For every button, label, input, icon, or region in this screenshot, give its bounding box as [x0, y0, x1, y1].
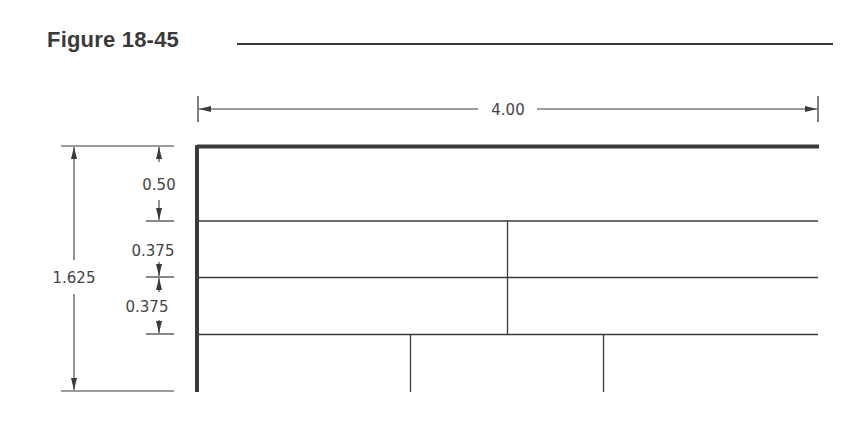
vertical-dividers: [411, 221, 604, 392]
band-dimension-top-label: 0.50: [142, 176, 175, 194]
band-dimensions: 0.50 0.375 0.375: [126, 147, 176, 334]
band-lines: [199, 221, 818, 335]
band-dimension-middle-1-label: 0.375: [132, 242, 175, 260]
technical-drawing: 4.00 1.625 0.50 0.375: [0, 0, 868, 431]
band-dimension-middle-2-label: 0.375: [126, 298, 169, 316]
height-dimension-label: 1.625: [53, 269, 96, 287]
width-dimension-label: 4.00: [491, 101, 524, 119]
width-dimension: 4.00: [198, 96, 818, 122]
